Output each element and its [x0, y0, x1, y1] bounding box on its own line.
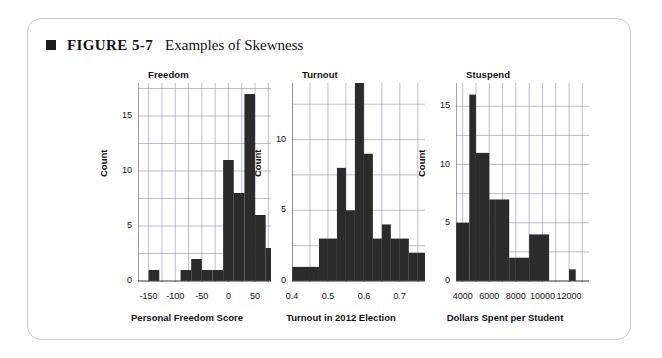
x-tick-label: 12000 — [549, 291, 589, 301]
panel-title-turnout: Turnout — [302, 69, 338, 80]
histogram-bar — [234, 193, 245, 281]
histogram-bar — [364, 154, 373, 281]
y-tick-label: 15 — [106, 110, 132, 120]
histogram-bar — [469, 95, 476, 281]
x-axis-label-turnout: Turnout in 2012 Election — [246, 312, 436, 323]
histogram-bar — [355, 83, 364, 281]
histogram-bar — [569, 269, 576, 281]
histogram-bar — [489, 199, 496, 281]
histogram-bar — [516, 258, 529, 281]
y-tick-label: 0 — [260, 275, 286, 285]
y-tick-label: 5 — [424, 217, 450, 227]
histogram-bar — [373, 239, 382, 281]
y-tick-label: 0 — [106, 275, 132, 285]
square-bullet-icon — [46, 40, 56, 50]
histogram-bar — [391, 239, 400, 281]
histogram-bar — [400, 239, 409, 281]
y-tick-label: 5 — [260, 204, 286, 214]
histogram-bar — [529, 234, 549, 281]
histogram-panels: Freedom Count Personal Freedom Score 051… — [28, 69, 632, 334]
panel-stuspend: Stuspend Count Dollars Spent per Student… — [410, 69, 600, 331]
x-tick-label: 0.5 — [308, 291, 348, 301]
histogram-bar — [509, 258, 516, 281]
panel-turnout: Turnout Count Turnout in 2012 Election 0… — [246, 69, 436, 331]
y-tick-label: 10 — [260, 134, 286, 144]
histogram-bar — [382, 224, 391, 281]
x-tick-label: 0.6 — [344, 291, 384, 301]
figure-title: Examples of Skewness — [165, 37, 303, 54]
figure-number: FIGURE 5-7 — [67, 37, 153, 54]
histogram-bar — [181, 270, 192, 281]
histogram-bar — [202, 270, 213, 281]
histogram-bar — [496, 199, 509, 281]
histogram-bar — [456, 223, 469, 281]
figure-header: FIGURE 5-7 Examples of Skewness — [46, 35, 303, 55]
x-tick-label: 0.4 — [272, 291, 312, 301]
y-tick-label: 10 — [424, 159, 450, 169]
histogram-bar — [223, 160, 234, 281]
panel-title-freedom: Freedom — [148, 69, 189, 80]
x-axis-label-stuspend: Dollars Spent per Student — [410, 312, 600, 323]
histogram-bar — [191, 259, 202, 281]
y-tick-label: 15 — [424, 100, 450, 110]
histogram-bar — [301, 267, 310, 281]
histogram-bar — [149, 270, 160, 281]
histogram-bar — [346, 210, 355, 281]
histogram-bar — [319, 239, 328, 281]
figure-card: FIGURE 5-7 Examples of Skewness Freedom … — [27, 18, 631, 340]
y-tick-label: 10 — [106, 165, 132, 175]
plot-area-stuspend — [456, 83, 589, 281]
histogram-bar — [212, 270, 223, 281]
panel-title-stuspend: Stuspend — [466, 69, 510, 80]
y-tick-label: 0 — [424, 275, 450, 285]
y-axis-label-turnout: Count — [252, 150, 263, 177]
histogram-svg — [292, 83, 426, 282]
histogram-bar — [328, 239, 337, 281]
histogram-bar — [292, 267, 301, 281]
y-tick-label: 5 — [106, 220, 132, 230]
histogram-bar — [476, 153, 489, 281]
histogram-svg — [456, 83, 590, 282]
plot-area-turnout — [292, 83, 425, 281]
histogram-bar — [337, 168, 346, 281]
histogram-bar — [310, 267, 319, 281]
